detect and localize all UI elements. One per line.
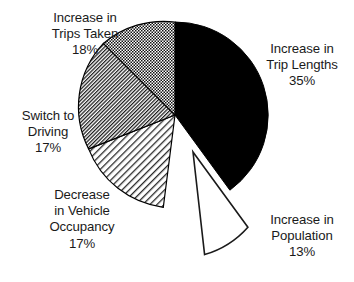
slice-label-switch-to-driving: Switch to Driving 17% — [4, 108, 92, 157]
slice-label-occupancy-line3: Occupancy — [26, 219, 138, 235]
slice-label-trips-taken-line1: Increase in — [22, 10, 148, 26]
slice-label-vehicle-occupancy: Decrease in Vehicle Occupancy 17% — [26, 187, 138, 252]
slice-label-occupancy-line2: in Vehicle — [26, 203, 138, 219]
slice-label-switch-line1: Switch to — [4, 108, 92, 124]
slice-label-switch-line2: Driving — [4, 124, 92, 140]
slice-label-population-line2: Population — [252, 228, 352, 244]
slice-label-population-line1: Increase in — [252, 212, 352, 228]
pie-chart: Increase in Trips Taken 18% Increase in … — [0, 0, 354, 282]
slice-label-trips-taken: Increase in Trips Taken 18% — [22, 10, 148, 59]
slice-label-trip-lengths-value: 35% — [252, 73, 352, 89]
slice-label-switch-value: 17% — [4, 140, 92, 156]
slice-label-occupancy-line1: Decrease — [26, 187, 138, 203]
slice-label-trips-taken-line2: Trips Taken — [22, 26, 148, 42]
slice-label-trip-lengths-line2: Trip Lengths — [252, 57, 352, 73]
slice-label-population-value: 13% — [252, 244, 352, 260]
slice-label-occupancy-value: 17% — [26, 236, 138, 252]
slice-label-trip-lengths-line1: Increase in — [252, 41, 352, 57]
slice-label-trips-taken-value: 18% — [22, 42, 148, 58]
slice-label-population: Increase in Population 13% — [252, 212, 352, 261]
slice-label-trip-lengths: Increase in Trip Lengths 35% — [252, 41, 352, 90]
